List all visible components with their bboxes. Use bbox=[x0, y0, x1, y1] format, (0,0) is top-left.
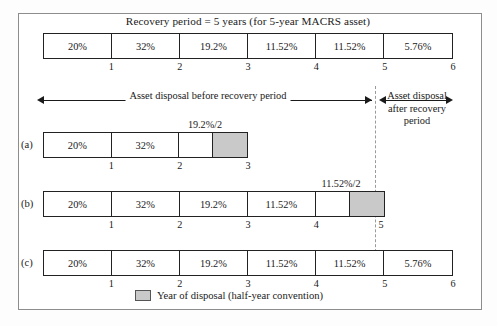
row-b-tick-3: 3 bbox=[245, 219, 250, 230]
bar-b-year-5-disposal-half bbox=[350, 192, 384, 216]
tick-5: 5 bbox=[382, 61, 387, 72]
row-b-tick-5: 5 bbox=[378, 219, 383, 230]
right-arrow-label-line-1: Asset disposal bbox=[387, 90, 447, 103]
tick-2: 2 bbox=[177, 61, 182, 72]
row-c-tick-5: 5 bbox=[382, 278, 387, 289]
row-c-tick-2: 2 bbox=[177, 278, 182, 289]
tick-3: 3 bbox=[245, 61, 250, 72]
left-arrow-head-start bbox=[37, 96, 44, 104]
bar-row-a: 20% 32% bbox=[43, 132, 248, 158]
left-arrow-label: Asset disposal before recovery period bbox=[126, 90, 291, 101]
right-arrow-label-line-3: period bbox=[387, 115, 447, 128]
bar-a-cell-year-1: 20% bbox=[44, 133, 112, 157]
row-a-tick-2: 2 bbox=[177, 160, 182, 171]
recovery-period-divider bbox=[375, 86, 376, 262]
row-c-tick-3: 3 bbox=[245, 278, 250, 289]
tick-6: 6 bbox=[450, 61, 455, 72]
bar-cell-year-2: 32% bbox=[112, 34, 180, 58]
legend-label: Year of disposal (half-year convention) bbox=[157, 290, 323, 301]
bar-c-cell-year-2: 32% bbox=[112, 251, 180, 275]
row-b-callout: 11.52%/2 bbox=[322, 178, 361, 189]
row-a-year-ticks: 1 2 3 bbox=[43, 160, 248, 174]
bar-a-cell-year-2: 32% bbox=[112, 133, 180, 157]
bar-a-year-3-first-half bbox=[179, 133, 213, 157]
bar-cell-year-5: 11.52% bbox=[316, 34, 384, 58]
tick-4: 4 bbox=[314, 61, 319, 72]
bar-b-cell-year-2: 32% bbox=[112, 192, 180, 216]
row-b-tick-4: 4 bbox=[314, 219, 319, 230]
bar-b-cell-year-5-half bbox=[316, 192, 384, 216]
bar-a-year-3-disposal-half bbox=[213, 133, 247, 157]
right-arrow-label: Asset disposal after recovery period bbox=[387, 90, 447, 128]
bar-row-b: 20% 32% 19.2% 11.52% bbox=[43, 191, 385, 217]
row-b-year-ticks: 1 2 3 4 5 bbox=[43, 219, 385, 233]
row-label-b: (b) bbox=[21, 198, 33, 209]
row-a-tick-1: 1 bbox=[109, 160, 114, 171]
bar-full-schedule: 20% 32% 19.2% 11.52% 11.52% 5.76% bbox=[43, 33, 453, 59]
left-arrow-head-end bbox=[365, 96, 372, 104]
bar-c-cell-year-1: 20% bbox=[44, 251, 112, 275]
bar-b-cell-year-1: 20% bbox=[44, 192, 112, 216]
row-c-tick-1: 1 bbox=[109, 278, 114, 289]
bar-cell-year-1: 20% bbox=[44, 34, 112, 58]
row-b-tick-1: 1 bbox=[109, 219, 114, 230]
bar-a-cell-year-3-half bbox=[179, 133, 247, 157]
row-label-a: (a) bbox=[21, 139, 33, 150]
row-a-callout: 19.2%/2 bbox=[188, 119, 222, 130]
bar-b-cell-year-4: 11.52% bbox=[248, 192, 316, 216]
bar-b-year-5-first-half bbox=[316, 192, 350, 216]
bar-c-cell-year-4: 11.52% bbox=[248, 251, 316, 275]
bar-c-cell-year-6: 5.76% bbox=[384, 251, 452, 275]
row-c-tick-6: 6 bbox=[450, 278, 455, 289]
row-b-tick-2: 2 bbox=[177, 219, 182, 230]
legend: Year of disposal (half-year convention) bbox=[135, 290, 323, 301]
row-c-tick-4: 4 bbox=[314, 278, 319, 289]
bar-cell-year-3: 19.2% bbox=[180, 34, 248, 58]
top-bar-year-ticks: 1 2 3 4 5 6 bbox=[43, 61, 453, 75]
figure-title: Recovery period = 5 years (for 5-year MA… bbox=[43, 15, 453, 27]
row-a-tick-3: 3 bbox=[245, 160, 250, 171]
bar-row-c: 20% 32% 19.2% 11.52% 11.52% 5.76% bbox=[43, 250, 453, 276]
right-arrow-label-line-2: after recovery bbox=[387, 103, 447, 116]
tick-1: 1 bbox=[109, 61, 114, 72]
legend-swatch-icon bbox=[135, 290, 151, 301]
bar-cell-year-6: 5.76% bbox=[384, 34, 452, 58]
bar-c-cell-year-5: 11.52% bbox=[316, 251, 384, 275]
bar-cell-year-4: 11.52% bbox=[248, 34, 316, 58]
row-label-c: (c) bbox=[21, 257, 33, 268]
right-arrow-head-start bbox=[379, 96, 386, 104]
macrs-half-year-convention-figure: Recovery period = 5 years (for 5-year MA… bbox=[0, 0, 497, 326]
bar-b-cell-year-3: 19.2% bbox=[180, 192, 248, 216]
bar-c-cell-year-3: 19.2% bbox=[180, 251, 248, 275]
